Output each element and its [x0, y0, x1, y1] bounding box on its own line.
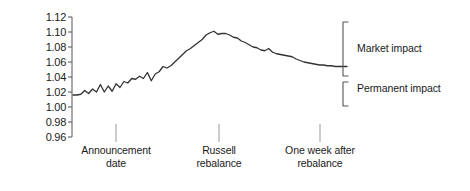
x-tick-label-line: rebalance	[174, 157, 264, 170]
x-tick-label-line: date	[66, 157, 166, 170]
x-axis-ticks	[116, 124, 320, 142]
chart-figure: Price (normalized) 1.12 1.10 1.08 1.06 1…	[0, 0, 470, 191]
annotation-label-market-impact: Market impact	[357, 42, 422, 54]
permanent-impact-bracket	[343, 82, 348, 106]
market-impact-bracket	[343, 22, 348, 76]
x-tick-label-line: Announcement	[66, 144, 166, 157]
price-series-line	[73, 31, 347, 95]
x-tick-label-announcement-date: Announcement date	[66, 144, 166, 170]
annotation-label-permanent-impact: Permanent impact	[357, 82, 441, 94]
y-tick-label: 1.02	[26, 86, 66, 98]
y-tick-label: 0.98	[26, 116, 66, 128]
y-tick-label: 1.04	[26, 71, 66, 83]
y-tick-label: 1.06	[26, 56, 66, 68]
y-axis	[68, 17, 72, 137]
y-tick-label: 1.12	[26, 11, 66, 23]
x-tick-label-line: rebalance	[270, 157, 370, 170]
x-tick-label-line: One week after	[270, 144, 370, 157]
x-tick-label-line: Russell	[174, 144, 264, 157]
y-tick-label: 1.00	[26, 101, 66, 113]
x-tick-label-russell-rebalance: Russell rebalance	[174, 144, 264, 170]
y-tick-label: 0.96	[26, 131, 66, 143]
y-tick-label: 1.10	[26, 26, 66, 38]
y-tick-label: 1.08	[26, 41, 66, 53]
x-tick-label-one-week-after-rebalance: One week after rebalance	[270, 144, 370, 170]
